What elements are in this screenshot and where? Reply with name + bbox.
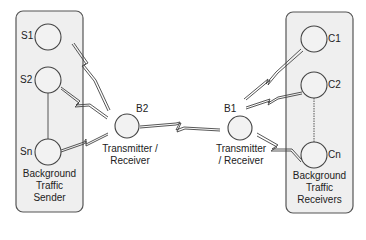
label-s2: S2 bbox=[20, 74, 32, 85]
label-cn: Cn bbox=[328, 149, 341, 160]
sender-group-title: Background Traffic Sender bbox=[16, 168, 83, 204]
node-sn bbox=[35, 139, 61, 165]
node-cn bbox=[301, 142, 327, 168]
label-s1: S1 bbox=[21, 30, 33, 41]
node-s1 bbox=[35, 24, 61, 50]
label-c1: C1 bbox=[328, 33, 341, 44]
caption-b1: Transmitter / Receiver bbox=[208, 143, 274, 167]
label-b1: B1 bbox=[224, 103, 236, 114]
node-b2 bbox=[115, 114, 139, 138]
node-c1 bbox=[301, 26, 327, 52]
node-c2 bbox=[301, 72, 327, 98]
node-b1 bbox=[228, 116, 252, 140]
label-sn: Sn bbox=[20, 146, 32, 157]
link-b2-b1 bbox=[140, 122, 220, 132]
label-c2: C2 bbox=[328, 79, 341, 90]
label-b2: B2 bbox=[136, 103, 148, 114]
receiver-group-title: Background Traffic Receivers bbox=[286, 170, 353, 206]
node-s2 bbox=[35, 67, 61, 93]
caption-b2: Transmitter / Receiver bbox=[97, 143, 163, 167]
